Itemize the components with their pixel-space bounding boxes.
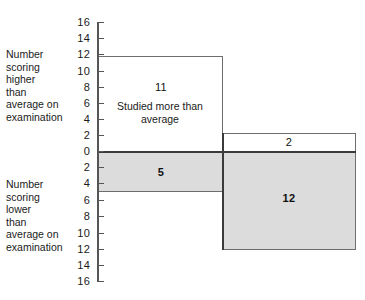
y-axis-tick-label: 4: [64, 178, 90, 189]
y-axis-tick-label: 14: [64, 33, 90, 44]
y-axis-tick: [97, 200, 104, 201]
y-axis-tick: [97, 249, 104, 250]
bar-value-studied-less-higher: 2: [278, 136, 300, 148]
y-axis-tick-label: 2: [64, 162, 90, 173]
group-divider-line: [222, 133, 224, 250]
y-axis-tick-label: 10: [64, 228, 90, 239]
y-axis-line: [97, 22, 99, 282]
y-axis-tick: [97, 71, 104, 72]
y-axis-tick-label: 16: [64, 17, 90, 28]
y-axis-tick-label: 12: [64, 244, 90, 255]
bar-value-studied-more-higher: 11: [150, 81, 172, 93]
y-axis-tick-label: 10: [64, 66, 90, 77]
y-axis-tick-label: 6: [64, 98, 90, 109]
y-axis-tick-label: 14: [64, 260, 90, 271]
y-axis-tick: [97, 281, 104, 282]
y-axis-tick-label: 6: [64, 195, 90, 206]
bar-value-studied-more-lower: 5: [150, 166, 172, 178]
y-axis-tick: [97, 135, 104, 136]
y-axis-tick: [97, 167, 104, 168]
y-axis-tick: [97, 38, 104, 39]
chart-container: Number scoring higher than average on ex…: [0, 0, 365, 300]
y-axis-tick: [97, 87, 104, 88]
y-axis-tick-label: 16: [64, 276, 90, 287]
y-axis-tick: [97, 54, 104, 55]
y-axis-tick: [97, 233, 104, 234]
y-axis-tick: [97, 265, 104, 266]
group-annotation-studied-more: Studied more than average: [103, 100, 217, 126]
y-axis-tick: [97, 22, 104, 23]
bar-value-studied-less-lower: 12: [278, 192, 300, 204]
y-axis-tick: [97, 151, 104, 152]
group-annotation-line: Studied more than: [103, 100, 217, 113]
y-axis-tick-label: 4: [64, 114, 90, 125]
y-axis-tick-label: 12: [64, 49, 90, 60]
y-axis-tick-label: 2: [64, 130, 90, 141]
zero-baseline: [97, 151, 356, 153]
y-axis-tick-label: 0: [64, 146, 90, 157]
y-axis-tick-label: 8: [64, 211, 90, 222]
y-axis-tick: [97, 183, 104, 184]
y-axis-tick-label: 8: [64, 82, 90, 93]
group-annotation-line: average: [103, 113, 217, 126]
y-axis-tick: [97, 216, 104, 217]
